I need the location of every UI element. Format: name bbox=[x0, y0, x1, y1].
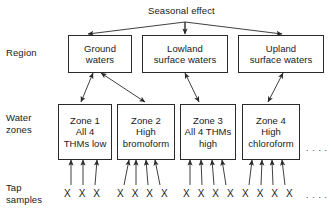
region-box-upland-surface-waters[interactable]: Upland surface waters bbox=[238, 35, 324, 73]
zones-more-ellipsis: . . . . bbox=[306, 143, 328, 153]
row-label-region: Region bbox=[6, 47, 37, 59]
samples-more-ellipsis: . . . . bbox=[306, 190, 328, 200]
row-label-tap-samples: Tap samples bbox=[6, 182, 42, 205]
tap-samples-zone-1: X X X bbox=[64, 188, 103, 199]
zone-box-3[interactable]: Zone 3 All 4 THMs high bbox=[180, 104, 236, 160]
diagram-title: Seasonal effect bbox=[148, 5, 215, 16]
region-box-ground-waters[interactable]: Ground waters bbox=[68, 35, 132, 73]
zone-box-2[interactable]: Zone 2 High bromoform bbox=[117, 104, 175, 160]
tap-samples-zone-4: X X X X bbox=[242, 188, 295, 199]
region-box-lowland-surface-waters[interactable]: Lowland surface waters bbox=[142, 35, 228, 73]
seasonal-effect-diagram: Seasonal effect Region Water zones Tap s… bbox=[0, 0, 331, 215]
zone-box-1[interactable]: Zone 1 All 4 THMs low bbox=[58, 104, 112, 160]
row-label-water-zones: Water zones bbox=[6, 112, 32, 135]
tap-samples-zone-3: X X X X bbox=[183, 188, 236, 199]
tap-samples-zone-2: X X X X bbox=[117, 188, 170, 199]
zone-box-4[interactable]: Zone 4 High chloroform bbox=[242, 104, 300, 160]
